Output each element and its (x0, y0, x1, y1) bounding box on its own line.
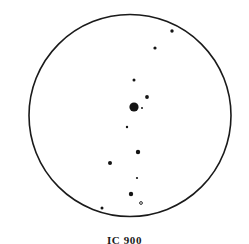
star-marker (101, 207, 104, 210)
chart-canvas (0, 0, 249, 244)
star-finder-chart: IC 900 (0, 0, 249, 244)
star-marker (170, 29, 173, 32)
star-marker (133, 79, 136, 82)
star-marker (153, 46, 156, 49)
star-marker (126, 126, 128, 128)
star-marker (129, 192, 133, 196)
star-marker (140, 202, 143, 205)
star-marker (141, 107, 143, 109)
chart-caption: IC 900 (0, 234, 249, 244)
star-marker (145, 95, 149, 99)
field-of-view-circle (29, 15, 231, 217)
star-markers-group (101, 29, 174, 209)
star-marker (108, 161, 112, 165)
star-marker (136, 150, 140, 154)
star-marker (129, 102, 138, 111)
star-marker (136, 177, 138, 179)
